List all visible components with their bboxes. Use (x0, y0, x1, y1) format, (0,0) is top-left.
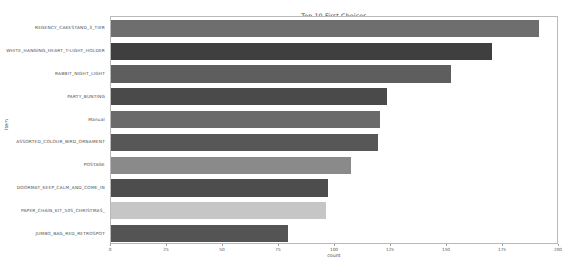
x-tick-label: 175 (498, 247, 506, 252)
bar-row (111, 157, 559, 174)
bar[interactable] (111, 225, 288, 242)
bar[interactable] (111, 65, 451, 82)
x-tick-label: 0 (109, 247, 112, 252)
y-tick-label: ASSORTED_COLOUR_BIRD_ORNAMENT (16, 139, 105, 144)
x-tick-mark (222, 244, 223, 246)
y-tick-label: Manual (88, 116, 105, 121)
x-tick-label: 200 (554, 247, 562, 252)
x-tick-mark (278, 244, 279, 246)
x-tick-label: 150 (442, 247, 450, 252)
y-tick-label: REGENCY_CAKESTAND_3_TIER (35, 25, 105, 30)
x-tick-label: 100 (330, 247, 338, 252)
y-tick-label: DOORMAT_KEEP_CALM_AND_COME_IN (17, 185, 105, 190)
y-tick-label: RABBIT_NIGHT_LIGHT (55, 71, 105, 76)
bar-row (111, 88, 559, 105)
x-tick-label: 75 (275, 247, 280, 252)
bar[interactable] (111, 20, 539, 37)
bar[interactable] (111, 157, 351, 174)
bar[interactable] (111, 134, 378, 151)
bar-row (111, 179, 559, 196)
y-axis-tick-labels: REGENCY_CAKESTAND_3_TIERWHITE_HANGING_HE… (0, 16, 108, 244)
x-tick-mark (166, 244, 167, 246)
y-axis-label: Item (4, 119, 9, 130)
bar-row (111, 202, 559, 219)
x-tick-label: 25 (163, 247, 168, 252)
bar-row (111, 111, 559, 128)
y-tick-label: POSTAGE (84, 162, 105, 167)
bar[interactable] (111, 111, 380, 128)
x-axis-label: count (110, 253, 558, 258)
bar[interactable] (111, 88, 387, 105)
bar-row (111, 65, 559, 82)
bar-chart-figure: Top 10 First Choices REGENCY_CAKESTAND_3… (0, 0, 570, 273)
x-tick-mark (334, 244, 335, 246)
bar-row (111, 43, 559, 60)
x-tick-mark (446, 244, 447, 246)
x-tick-mark (110, 244, 111, 246)
y-tick-label: JUMBO_BAG_RED_RETROSPOT (35, 230, 105, 235)
plot-area (110, 16, 558, 244)
bar-row (111, 20, 559, 37)
x-tick-label: 125 (386, 247, 394, 252)
bar[interactable] (111, 43, 492, 60)
bar-row (111, 225, 559, 242)
bar[interactable] (111, 179, 328, 196)
x-tick-mark (390, 244, 391, 246)
x-tick-mark (502, 244, 503, 246)
bar[interactable] (111, 202, 326, 219)
x-tick-label: 50 (219, 247, 224, 252)
y-tick-label: WHITE_HANGING_HEART_T-LIGHT_HOLDER (6, 48, 105, 53)
bar-row (111, 134, 559, 151)
y-tick-label: PARTY_BUNTING (67, 93, 105, 98)
y-tick-label: PAPER_CHAIN_KIT_50S_CHRISTMAS_ (21, 207, 105, 212)
x-tick-mark (558, 244, 559, 246)
